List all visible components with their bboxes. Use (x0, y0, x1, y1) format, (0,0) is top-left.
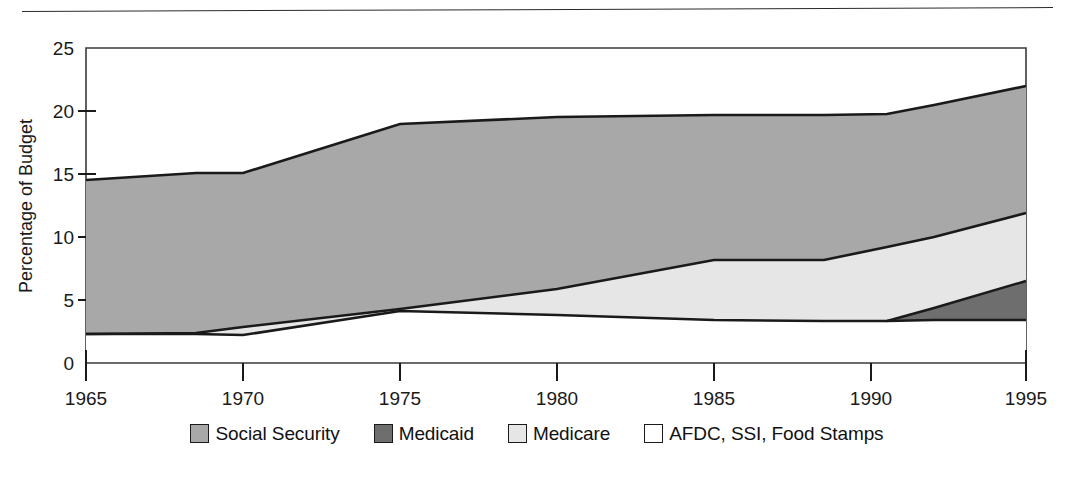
x-tick-label-1970: 1970 (222, 388, 264, 409)
x-tick-label-1985: 1985 (693, 388, 735, 409)
legend-item-social-security[interactable]: Social Security (190, 424, 339, 443)
x-tick-label-1965: 1965 (65, 388, 107, 409)
legend-swatch-medicaid (374, 424, 393, 443)
x-tick-label-1995: 1995 (1005, 388, 1047, 409)
y-tick-label-5: 5 (63, 290, 74, 311)
y-tick-label-10: 10 (53, 227, 74, 248)
legend-label-afdc-ssi-food-stamps: AFDC, SSI, Food Stamps (669, 424, 883, 443)
legend-label-medicare: Medicare (533, 424, 610, 443)
y-tick-label-0: 0 (63, 353, 74, 374)
y-axis-title: Percentage of Budget (16, 119, 36, 293)
stacked-area-chart: Percentage of Budget 25 20 15 10 5 0 (0, 0, 1074, 410)
x-tick-label-1990: 1990 (850, 388, 892, 409)
x-tick-label-1975: 1975 (379, 388, 421, 409)
chart-legend: Social Security Medicaid Medicare AFDC, … (0, 424, 1074, 443)
legend-item-afdc-ssi-food-stamps[interactable]: AFDC, SSI, Food Stamps (644, 424, 883, 443)
legend-swatch-medicare (508, 424, 527, 443)
x-tick-label-1980: 1980 (536, 388, 578, 409)
legend-item-medicare[interactable]: Medicare (508, 424, 610, 443)
y-tick-label-15: 15 (53, 164, 74, 185)
legend-label-social-security: Social Security (215, 424, 339, 443)
legend-label-medicaid: Medicaid (399, 424, 474, 443)
legend-item-medicaid[interactable]: Medicaid (374, 424, 474, 443)
y-tick-label-25: 25 (53, 38, 74, 59)
y-tick-label-20: 20 (53, 101, 74, 122)
legend-swatch-afdc-ssi-food-stamps (644, 424, 663, 443)
chart-svg: Percentage of Budget 25 20 15 10 5 0 (0, 0, 1074, 410)
figure-container: Percentage of Budget 25 20 15 10 5 0 (0, 0, 1074, 479)
legend-swatch-social-security (190, 424, 209, 443)
